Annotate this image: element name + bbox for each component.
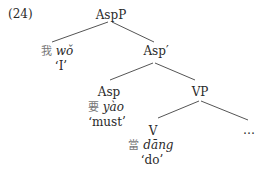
branch-asp-bar-to-vp: [155, 63, 195, 80]
branch-asp-p-to-asp-bar: [112, 22, 154, 42]
node-v: V: [149, 125, 158, 137]
v-pinyin: dāng: [143, 138, 173, 152]
v-word: 當 dāng: [128, 139, 173, 151]
branch-asp-p-to-spec: [52, 22, 108, 42]
v-hanzi: 當: [128, 139, 139, 152]
node-asp: Asp: [98, 86, 121, 98]
spec-pinyin: wǒ: [56, 44, 74, 58]
asp-hanzi: 要: [88, 101, 99, 114]
asp-word: 要 yào: [88, 101, 124, 113]
asp-gloss: ‘must’: [88, 116, 126, 128]
branch-vp-to-ellipsis: [201, 101, 248, 120]
node-asp-p: AspP: [96, 9, 127, 21]
node-asp-bar: Asp′: [143, 45, 168, 57]
asp-pinyin: yào: [103, 100, 124, 114]
branch-vp-to-v: [158, 101, 199, 118]
node-spec-word: 我 wǒ: [41, 45, 73, 57]
node-vp: VP: [192, 86, 209, 98]
spec-hanzi: 我: [41, 45, 52, 58]
v-gloss: ‘do’: [141, 154, 164, 166]
branch-asp-bar-to-asp: [110, 63, 153, 80]
spec-gloss: ‘I’: [55, 60, 67, 72]
node-ellipsis: …: [243, 124, 255, 136]
